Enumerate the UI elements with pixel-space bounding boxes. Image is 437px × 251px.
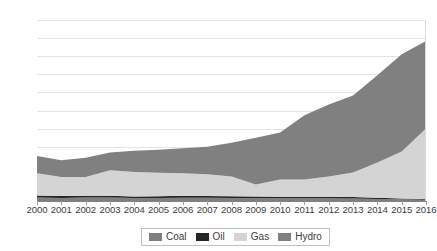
plot-right-border (425, 20, 426, 202)
x-axis-tick-label: 2000 (24, 205, 50, 215)
legend-label: Oil (213, 232, 225, 242)
legend-label: Gas (251, 232, 269, 242)
x-axis-tick-label: 2004 (121, 205, 147, 215)
legend-label: Hydro (295, 232, 322, 242)
legend-item-hydro[interactable]: Hydro (278, 232, 322, 242)
plot-area (37, 20, 426, 201)
legend-swatch-hydro (278, 233, 291, 241)
x-axis-tick-label: 2001 (48, 205, 74, 215)
legend-item-gas[interactable]: Gas (234, 232, 269, 242)
x-axis-tick-label: 2011 (291, 205, 317, 215)
x-axis-labels: 2000200120022003200420052006200720082009… (37, 203, 426, 219)
stacked-area-chart: 0200040006000800010000120001400016000180… (0, 0, 437, 251)
legend-item-coal[interactable]: Coal (149, 232, 187, 242)
x-axis-tick-label: 2002 (73, 205, 99, 215)
legend-label: Coal (166, 232, 187, 242)
x-axis-tick-label: 2003 (97, 205, 123, 215)
legend-swatch-oil (196, 233, 209, 241)
legend-swatch-gas (234, 233, 247, 241)
x-axis-tick-label: 2014 (364, 205, 390, 215)
chart-legend: CoalOilGasHydro (141, 228, 330, 246)
x-axis-tick-label: 2012 (316, 205, 342, 215)
x-axis-tick-label: 2015 (389, 205, 415, 215)
x-axis-tick-label: 2009 (243, 205, 269, 215)
legend-item-oil[interactable]: Oil (196, 232, 225, 242)
legend-swatch-coal (149, 233, 162, 241)
x-axis-tick-label: 2007 (194, 205, 220, 215)
x-axis-tick-label: 2008 (219, 205, 245, 215)
x-axis-tick-label: 2016 (413, 205, 437, 215)
x-axis-tick-label: 2010 (267, 205, 293, 215)
area-series-hydro (37, 41, 426, 184)
x-axis-tick-label: 2005 (146, 205, 172, 215)
x-axis-tick-label: 2006 (170, 205, 196, 215)
area-series-group (37, 20, 426, 201)
x-axis-tick-label: 2013 (340, 205, 366, 215)
